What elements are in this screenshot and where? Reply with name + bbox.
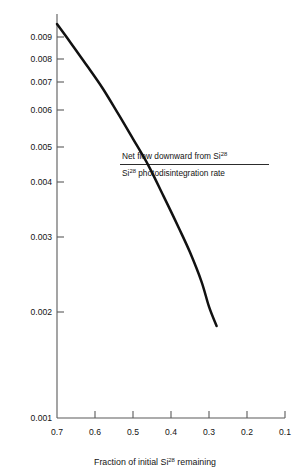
chart-figure: 0.009 0.008 0.007 0.006 0.005 0.004 0.00… (0, 0, 305, 474)
y-tick-label-0.007: 0.007 (30, 77, 52, 87)
x-axis-title-pre: Fraction of initial Si (94, 457, 168, 467)
annotation-denominator-pre: Si (122, 168, 130, 178)
x-tick-label-0.6: 0.6 (89, 427, 101, 437)
x-axis-title: Fraction of initial Si28 remaining (94, 457, 216, 467)
x-tick-label-0.1: 0.1 (279, 427, 291, 437)
x-tick-label-0.5: 0.5 (127, 427, 139, 437)
x-tick-label-0.7: 0.7 (51, 427, 63, 437)
y-tick-label-0.008: 0.008 (30, 54, 52, 64)
annotation-denominator: Si28 photodisintegration rate (122, 168, 225, 178)
x-tick-label-0.2: 0.2 (241, 427, 253, 437)
y-tick-label-0.002: 0.002 (30, 307, 52, 317)
annotation-numerator-text: Net flow downward from Si (122, 151, 221, 161)
y-tick-label-0.004: 0.004 (30, 177, 52, 187)
x-tick-label-0.4: 0.4 (165, 427, 177, 437)
x-axis-title-post: remaining (175, 457, 216, 467)
y-tick-label-0.003: 0.003 (30, 232, 52, 242)
annotation-numerator-superscript: 28 (221, 151, 228, 157)
chart-svg: 0.009 0.008 0.007 0.006 0.005 0.004 0.00… (0, 0, 305, 474)
x-tick-label-0.3: 0.3 (203, 427, 215, 437)
annotation-denominator-post: photodisintegration rate (136, 168, 225, 178)
annotation-numerator: Net flow downward from Si28 (122, 151, 228, 161)
y-tick-label-0.009: 0.009 (30, 32, 52, 42)
y-tick-label-0.006: 0.006 (30, 105, 52, 115)
y-tick-label-0.005: 0.005 (30, 142, 52, 152)
y-tick-label-0.001: 0.001 (30, 413, 52, 423)
